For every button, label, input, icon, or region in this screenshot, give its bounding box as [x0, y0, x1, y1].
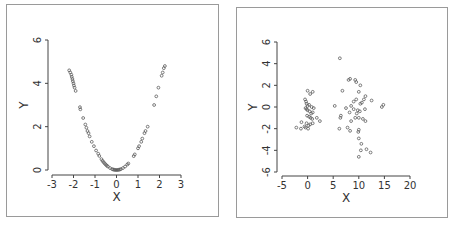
- data-point: [87, 132, 90, 135]
- x-tick-label: 0: [113, 179, 119, 190]
- y-tick-label: 2: [32, 123, 43, 129]
- data-point: [370, 99, 373, 102]
- data-point: [88, 135, 91, 138]
- y-tick-label: 6: [261, 39, 272, 45]
- data-point: [133, 153, 136, 156]
- x-tick-label: 3: [178, 179, 184, 190]
- x-tick-label: -5: [277, 180, 287, 191]
- data-point: [308, 103, 311, 106]
- data-point: [309, 93, 312, 96]
- data-point: [300, 121, 303, 124]
- data-point: [357, 155, 360, 158]
- data-point: [354, 116, 357, 119]
- x-tick-label: 2: [156, 179, 162, 190]
- data-point: [352, 108, 355, 111]
- left-scatter-plot: -3-2-10123X0246Y: [17, 37, 184, 204]
- data-point: [311, 90, 314, 93]
- y-tick-label: -4: [261, 145, 272, 155]
- x-tick-label: 20: [404, 180, 417, 191]
- x-tick-label: -2: [69, 179, 79, 190]
- data-point: [160, 74, 163, 77]
- x-tick-label: 10: [352, 180, 365, 191]
- y-tick-label: 2: [261, 82, 272, 88]
- data-point: [355, 81, 358, 84]
- data-point: [349, 129, 352, 132]
- data-point: [98, 155, 101, 158]
- data-point: [311, 111, 314, 114]
- data-point: [157, 86, 160, 89]
- data-point: [364, 120, 367, 123]
- data-point: [300, 127, 303, 130]
- data-point: [365, 148, 368, 151]
- data-point: [352, 100, 355, 103]
- data-point: [138, 145, 141, 148]
- y-axis-label: Y: [246, 103, 260, 112]
- data-point: [359, 149, 362, 152]
- x-tick-label: -3: [47, 179, 57, 190]
- data-point: [155, 95, 158, 98]
- data-point: [90, 140, 93, 143]
- data-point: [307, 127, 310, 130]
- data-point: [312, 107, 315, 110]
- x-tick-label: 5: [330, 180, 336, 191]
- y-tick-label: 4: [32, 80, 43, 86]
- data-point: [74, 90, 77, 93]
- data-point: [357, 116, 360, 119]
- data-point: [357, 137, 360, 140]
- data-point: [311, 122, 314, 125]
- x-axis-label: X: [342, 191, 350, 205]
- data-point: [363, 98, 366, 101]
- data-point: [345, 107, 348, 110]
- data-point: [357, 131, 360, 134]
- y-tick-label: 0: [32, 167, 43, 173]
- x-tick-label: 15: [378, 180, 391, 191]
- y-tick-label: 0: [261, 104, 272, 110]
- data-point: [161, 71, 164, 74]
- data-point: [306, 89, 309, 92]
- data-point: [364, 95, 367, 98]
- data-point: [153, 104, 156, 107]
- data-point: [73, 86, 76, 89]
- data-point: [315, 116, 318, 119]
- data-point: [346, 126, 349, 129]
- data-point: [95, 149, 98, 152]
- data-point: [311, 118, 314, 121]
- data-point: [84, 123, 87, 126]
- data-point: [163, 65, 166, 68]
- data-point: [79, 108, 82, 111]
- data-point: [355, 98, 358, 101]
- data-point: [358, 110, 361, 113]
- data-point: [364, 108, 367, 111]
- y-tick-label: 4: [261, 60, 272, 66]
- x-tick-label: 1: [135, 179, 141, 190]
- data-point: [361, 118, 364, 121]
- data-point: [333, 105, 336, 108]
- data-point: [355, 112, 358, 115]
- y-tick-label: -2: [261, 124, 272, 134]
- data-point: [369, 151, 372, 154]
- data-point: [295, 126, 298, 129]
- data-point: [338, 127, 341, 130]
- data-point: [318, 120, 321, 123]
- data-point: [359, 102, 362, 105]
- data-point: [349, 77, 352, 80]
- data-point: [146, 125, 149, 128]
- data-point: [82, 117, 85, 120]
- x-tick-label: 0: [304, 180, 310, 191]
- data-point: [144, 130, 147, 133]
- y-axis-label: Y: [17, 101, 31, 110]
- data-point: [141, 137, 144, 140]
- data-point: [360, 142, 363, 145]
- data-point: [359, 84, 362, 87]
- right-scatter-plot: -505101520X-6-4-20246Y: [246, 39, 416, 205]
- data-point: [140, 140, 143, 143]
- x-axis-label: X: [112, 190, 120, 204]
- x-tick-label: -1: [90, 179, 100, 190]
- y-tick-label: -6: [261, 167, 272, 177]
- data-point: [350, 120, 353, 123]
- data-point: [341, 89, 344, 92]
- data-point: [339, 116, 342, 119]
- data-point: [93, 145, 96, 148]
- data-point: [85, 126, 88, 129]
- data-point: [380, 106, 383, 109]
